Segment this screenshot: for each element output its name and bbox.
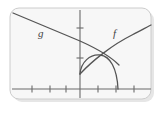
curve-label-g: g [38, 27, 44, 39]
plot-canvas: g f [0, 0, 161, 113]
graph-figure: g f [0, 0, 161, 113]
